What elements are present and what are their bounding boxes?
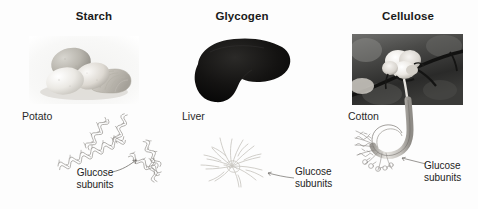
callout-line-1: Glucose (295, 166, 332, 177)
cotton-photo (352, 34, 463, 105)
callout-line-1: Glucose (424, 160, 461, 171)
polysaccharide-comparison-figure: Starch (0, 0, 478, 209)
potato-photo (29, 36, 139, 104)
source-label-liver: Liver (182, 110, 205, 122)
source-label-potato: Potato (22, 110, 52, 122)
callout-line-2: subunits (424, 172, 461, 184)
column-title-glycogen: Glycogen (192, 10, 292, 22)
column-title-starch: Starch (44, 10, 144, 22)
callout-line-2: subunits (62, 179, 128, 191)
callout-line-1: Glucose (77, 167, 114, 178)
callout-glucose-subunits-glycogen: Glucose subunits (295, 166, 332, 189)
callout-glucose-subunits-starch: Glucose subunits (62, 167, 128, 190)
column-title-cellulose: Cellulose (358, 10, 458, 22)
callout-glucose-subunits-cellulose: Glucose subunits (424, 160, 461, 183)
glycogen-structure-diagram (186, 132, 306, 188)
liver-silhouette (190, 34, 294, 108)
callout-line-2: subunits (295, 178, 332, 190)
